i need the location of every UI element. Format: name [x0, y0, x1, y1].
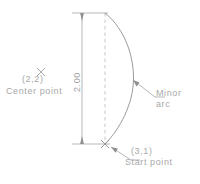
leader-arrowhead-start-point — [111, 147, 118, 153]
dimension-value-label: 2.00 — [72, 72, 83, 92]
center-point-caption: Center point — [6, 86, 62, 97]
dimension-arrowhead-top — [80, 13, 84, 21]
center-point-coordinate-label: (2,2) — [22, 74, 44, 85]
start-point-coordinate-label: (3,1) — [131, 146, 153, 157]
minor-arc-label-line1: Minor — [156, 88, 182, 99]
minor-arc-label-line2: arc — [156, 99, 170, 110]
minor-arc-path — [105, 13, 134, 144]
dimension-arrowhead-bottom — [80, 136, 84, 144]
cad-drawing-canvas: (2,2) Center point 2.00 Minor arc (3,1) … — [0, 0, 200, 184]
start-point-caption: Start point — [125, 157, 173, 168]
leader-arrowhead-minor-arc — [133, 80, 140, 86]
